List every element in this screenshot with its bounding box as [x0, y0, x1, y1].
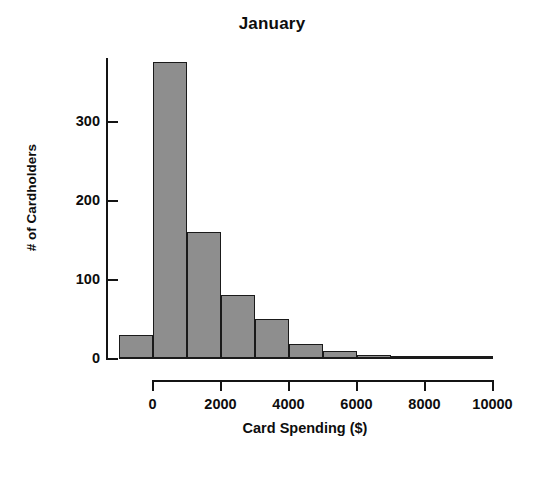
x-tick-mark: [356, 380, 358, 391]
y-tick-label: 200: [58, 192, 100, 208]
y-tick-label: 300: [58, 113, 100, 129]
x-tick-mark: [288, 380, 290, 391]
x-tick-label: 10000: [458, 396, 528, 412]
histogram-bar: [221, 295, 255, 358]
x-tick-mark: [152, 380, 154, 391]
y-tick-mark: [106, 121, 118, 123]
x-tick-label: 6000: [322, 396, 392, 412]
y-axis-line: [106, 58, 108, 360]
plot-area: 0100200300 0200040006000800010000: [0, 0, 544, 480]
x-tick-mark: [424, 380, 426, 391]
y-tick-mark: [106, 200, 118, 202]
histogram-bar: [119, 335, 153, 359]
y-tick-mark: [106, 358, 118, 360]
y-tick-label: 0: [58, 350, 100, 366]
x-tick-label: 2000: [186, 396, 256, 412]
histogram-figure: January # of Cardholders 0100200300 0200…: [0, 0, 544, 480]
x-tick-label: 8000: [390, 396, 460, 412]
x-tick-label: 0: [118, 396, 188, 412]
histogram-bar: [153, 62, 187, 358]
histogram-bar: [187, 232, 221, 358]
histogram-bar: [255, 319, 289, 359]
x-tick-mark: [492, 380, 494, 391]
y-tick-label: 100: [58, 271, 100, 287]
x-tick-mark: [220, 380, 222, 391]
bar-baseline: [119, 357, 492, 359]
x-axis-line: [152, 380, 492, 382]
x-tick-label: 4000: [254, 396, 324, 412]
y-tick-mark: [106, 279, 118, 281]
x-axis-label: Card Spending ($): [95, 420, 515, 436]
